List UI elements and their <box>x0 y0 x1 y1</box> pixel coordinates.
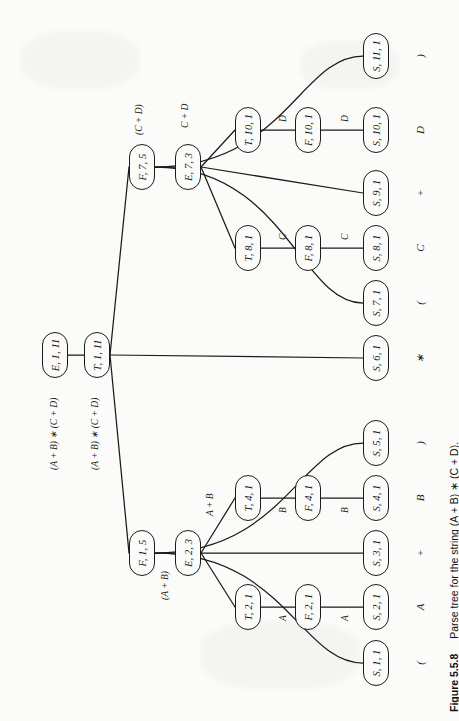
tree-node-label: F, 7, 5 <box>137 154 148 181</box>
terminal-symbol: ∗ <box>414 354 427 363</box>
tree-node-label: F, 1, 5 <box>137 540 148 567</box>
figure-caption-text: Parse tree for the string (A + B) ∗ (C +… <box>448 442 459 639</box>
figure-caption: Figure 5.5.8 Parse tree for the string (… <box>448 442 459 712</box>
tree-node-label: T, 10, 1 <box>243 114 254 146</box>
tree-node-s-10-1: S, 10, 1 <box>363 107 389 153</box>
tree-edge-t-1-11-to-f-1-5 <box>110 355 129 553</box>
tree-node-label: E, 1, 11 <box>50 339 61 372</box>
figure-number: Figure 5.5.8 <box>448 654 459 712</box>
tree-node-s-4-1: S, 4, 1 <box>363 475 389 521</box>
edge-label-lbl-t2-a: A <box>278 615 288 621</box>
tree-edge-e-7-3-to-t-10-1 <box>201 130 235 167</box>
edge-label-lbl-t8-c: C <box>278 234 288 240</box>
edge-label-lbl-t1: (A + B) ∗ (C + D) <box>89 398 100 470</box>
edge-label-lbl-f4-b: B <box>340 507 350 513</box>
terminal-symbol: + <box>414 189 426 196</box>
tree-node-label: S, 10, 1 <box>371 114 382 146</box>
terminal-symbol: B <box>414 495 426 502</box>
tree-node-label: E, 7, 3 <box>183 153 194 181</box>
tree-node-s-9-1: S, 9, 1 <box>363 170 389 216</box>
tree-node-label: S, 3, 1 <box>371 540 382 567</box>
tree-node-s-6-1: S, 6, 1 <box>363 335 389 381</box>
tree-node-label: F, 8, 1 <box>303 235 314 262</box>
tree-node-f-8-1: F, 8, 1 <box>295 225 321 271</box>
tree-edge-e-7-3-to-s-9-1 <box>201 167 363 193</box>
tree-node-s-8-1: S, 8, 1 <box>363 225 389 271</box>
tree-node-s-5-1: S, 5, 1 <box>363 420 389 466</box>
tree-node-label: S, 4, 1 <box>371 485 382 512</box>
tree-edge-e-2-3-to-t-2-1 <box>201 553 235 607</box>
tree-node-label: S, 8, 1 <box>371 235 382 262</box>
tree-node-t-2-1: T, 2, 1 <box>235 584 261 630</box>
tree-node-label: F, 2, 1 <box>303 594 314 621</box>
tree-node-e-7-3: E, 7, 3 <box>175 144 201 190</box>
edge-label-lbl-root: (A + B) ∗ (C + D) <box>48 398 59 470</box>
tree-node-s-2-1: S, 2, 1 <box>363 584 389 630</box>
tree-node-f-4-1: F, 4, 1 <box>295 475 321 521</box>
edge-label-lbl-e23: A + B <box>205 493 215 516</box>
tree-node-label: T, 8, 1 <box>243 235 254 262</box>
edge-label-lbl-f15: (A + B) <box>160 571 170 600</box>
terminal-symbol: D <box>414 126 426 134</box>
tree-node-e-2-3: E, 2, 3 <box>175 530 201 576</box>
terminal-symbol: A <box>414 604 426 611</box>
tree-edge-t-1-11-to-f-7-5 <box>110 167 129 355</box>
edge-label-lbl-f10-d: D <box>340 115 350 122</box>
tree-edge-t-1-11-to-s-6-1 <box>110 355 363 358</box>
tree-node-label: T, 4, 1 <box>243 485 254 512</box>
tree-node-f-1-5: F, 1, 5 <box>129 530 155 576</box>
tree-node-e-1-11: E, 1, 11 <box>42 332 68 378</box>
tree-node-label: S, 5, 1 <box>371 430 382 457</box>
tree-node-t-4-1: T, 4, 1 <box>235 475 261 521</box>
terminal-symbol: ) <box>414 54 426 58</box>
terminal-symbol: ( <box>414 301 426 305</box>
edge-label-lbl-f8-c: C <box>340 234 350 240</box>
tree-node-s-7-1: S, 7, 1 <box>363 280 389 326</box>
tree-node-label: S, 1, 1 <box>371 650 382 677</box>
edge-label-lbl-f2-a: A <box>340 615 350 621</box>
tree-node-s-1-1: S, 1, 1 <box>363 640 389 686</box>
edge-label-lbl-t10-d: D <box>278 115 288 122</box>
edge-label-lbl-f75: (C + D) <box>134 104 144 135</box>
tree-node-t-10-1: T, 10, 1 <box>235 107 261 153</box>
tree-node-label: S, 11, 1 <box>371 40 382 72</box>
tree-node-label: T, 1, 11 <box>92 339 103 370</box>
tree-node-t-8-1: T, 8, 1 <box>235 225 261 271</box>
tree-node-s-11-1: S, 11, 1 <box>363 33 389 79</box>
tree-node-label: S, 7, 1 <box>371 290 382 317</box>
tree-node-label: S, 6, 1 <box>371 345 382 372</box>
terminal-symbol: + <box>414 549 426 556</box>
tree-node-label: S, 9, 1 <box>371 180 382 207</box>
tree-node-label: F, 4, 1 <box>303 485 314 512</box>
tree-node-label: S, 2, 1 <box>371 594 382 621</box>
tree-node-f-7-5: F, 7, 5 <box>129 144 155 190</box>
figure-page: E, 1, 11T, 1, 11F, 7, 5E, 7, 3T, 10, 1F,… <box>0 0 459 721</box>
tree-edge-e-7-3-to-t-8-1 <box>201 167 235 248</box>
parse-tree-edges <box>0 0 459 721</box>
terminal-symbol: C <box>414 244 426 251</box>
tree-node-label: T, 2, 1 <box>243 594 254 621</box>
edge-label-lbl-e73: C + D <box>180 104 190 128</box>
edge-label-lbl-t4-b: B <box>278 507 288 513</box>
tree-node-t-1-11: T, 1, 11 <box>84 332 110 378</box>
terminal-symbol: ( <box>414 661 426 665</box>
tree-node-label: E, 2, 3 <box>183 539 194 567</box>
tree-node-s-3-1: S, 3, 1 <box>363 530 389 576</box>
tree-node-f-2-1: F, 2, 1 <box>295 584 321 630</box>
tree-node-label: F, 10, 1 <box>303 114 314 146</box>
terminal-symbol: ) <box>414 441 426 445</box>
tree-node-f-10-1: F, 10, 1 <box>295 107 321 153</box>
